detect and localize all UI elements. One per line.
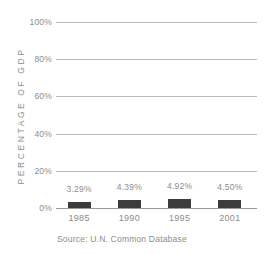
bar-2001	[218, 200, 241, 208]
gridline-80pct: 80%	[56, 59, 257, 60]
y-tick-label: 0%	[39, 203, 52, 213]
bar-value-label: 4.92%	[167, 181, 192, 191]
bar-value-label: 4.50%	[217, 182, 242, 192]
gridline-40pct: 40%	[56, 134, 257, 135]
bar-1985	[68, 202, 91, 208]
bar-value-label: 3.29%	[67, 184, 92, 194]
source-note: Source: U.N. Common Database	[57, 234, 187, 244]
plot-area: 0%20%40%60%80%100%3.29%19854.39%19904.92…	[56, 22, 257, 208]
x-tick-label: 1995	[169, 213, 190, 223]
y-tick-label: 20%	[34, 166, 52, 176]
y-tick-label: 40%	[34, 129, 52, 139]
gridline-0pct: 0%	[56, 208, 257, 209]
bar-1990	[118, 200, 141, 208]
chart-figure: PERCENTAGE OF GDP 0%20%40%60%80%100%3.29…	[0, 0, 275, 254]
x-tick-label: 2001	[219, 213, 240, 223]
gridline-20pct: 20%	[56, 171, 257, 172]
bar-value-label: 4.39%	[117, 182, 142, 192]
x-tick-label: 1985	[69, 213, 90, 223]
x-tick-label: 1990	[119, 213, 140, 223]
bar-1995	[168, 199, 191, 208]
y-axis-title: PERCENTAGE OF GDP	[12, 16, 30, 216]
y-tick-label: 80%	[34, 54, 52, 64]
y-tick-label: 100%	[29, 17, 52, 27]
gridline-100pct: 100%	[56, 22, 257, 23]
gridline-60pct: 60%	[56, 96, 257, 97]
y-tick-label: 60%	[34, 91, 52, 101]
